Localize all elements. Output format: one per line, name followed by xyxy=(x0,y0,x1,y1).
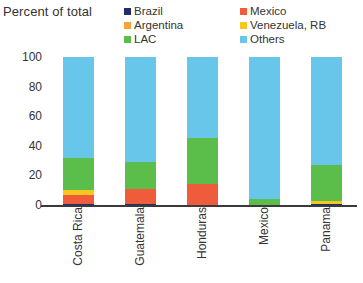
x-axis-label-panama: Panama xyxy=(311,207,342,283)
y-axis-tick-100: 100 xyxy=(22,51,42,63)
legend-item-brazil[interactable]: Brazil xyxy=(124,4,240,18)
legend-label-brazil: Brazil xyxy=(134,5,163,17)
plot-area: 100806040200 xyxy=(47,57,357,205)
bar-segment-others xyxy=(125,57,156,162)
bar-segment-lac xyxy=(187,138,218,184)
bar-segment-lac xyxy=(63,158,94,191)
bar-segment-mexico xyxy=(125,189,156,204)
legend-label-argentina: Argentina xyxy=(134,19,183,31)
legend-swatch-others xyxy=(240,36,247,43)
x-axis-label-mexico: Mexico xyxy=(249,207,280,283)
legend-label-others: Others xyxy=(250,33,285,45)
x-axis-label-text: Guatemala xyxy=(134,207,146,266)
y-axis-tick-60: 60 xyxy=(29,110,42,122)
x-axis-label-text: Costa Rica xyxy=(72,207,84,266)
legend-column-right: MexicoVenezuela, RBOthers xyxy=(240,4,356,46)
bar-segment-lac xyxy=(125,162,156,189)
bar-segment-others xyxy=(249,57,280,199)
legend-swatch-brazil xyxy=(124,8,131,15)
bar-segment-mexico xyxy=(63,195,94,204)
x-axis-label-text: Honduras xyxy=(196,207,208,259)
legend-item-argentina[interactable]: Argentina xyxy=(124,18,240,32)
legend-label-mexico: Mexico xyxy=(250,5,286,17)
bar-segment-others xyxy=(187,57,218,138)
bars-container xyxy=(47,57,357,205)
bar-mexico[interactable] xyxy=(249,57,280,205)
bar-segment-mexico xyxy=(187,184,218,205)
chart-legend: BrazilArgentinaLAC MexicoVenezuela, RBOt… xyxy=(124,4,363,46)
x-axis-label-honduras: Honduras xyxy=(187,207,218,283)
stacked-bar-chart: Percent of total BrazilArgentinaLAC Mexi… xyxy=(0,0,363,283)
legend-item-venezuela[interactable]: Venezuela, RB xyxy=(240,18,356,32)
x-axis-label-guatemala: Guatemala xyxy=(125,207,156,283)
bar-segment-others xyxy=(63,57,94,158)
bar-honduras[interactable] xyxy=(187,57,218,205)
legend-swatch-mexico xyxy=(240,8,247,15)
y-axis-tick-20: 20 xyxy=(29,169,42,181)
y-axis-title: Percent of total xyxy=(3,4,92,19)
legend-item-mexico[interactable]: Mexico xyxy=(240,4,356,18)
legend-item-others[interactable]: Others xyxy=(240,32,356,46)
bar-guatemala[interactable] xyxy=(125,57,156,205)
legend-swatch-argentina xyxy=(124,22,131,29)
y-axis-tick-80: 80 xyxy=(29,81,42,93)
bar-segment-lac xyxy=(311,165,342,201)
legend-swatch-venezuela xyxy=(240,22,247,29)
x-axis-label-text: Mexico xyxy=(258,207,270,245)
x-axis-label-costa-rica: Costa Rica xyxy=(63,207,94,283)
legend-swatch-lac xyxy=(124,36,131,43)
legend-label-lac: LAC xyxy=(134,33,156,45)
legend-item-lac[interactable]: LAC xyxy=(124,32,240,46)
bar-panama[interactable] xyxy=(311,57,342,205)
bar-segment-others xyxy=(311,57,342,165)
y-axis-tick-40: 40 xyxy=(29,140,42,152)
x-axis-label-text: Panama xyxy=(320,207,332,252)
x-axis-labels: Costa RicaGuatemalaHondurasMexicoPanama xyxy=(47,207,357,283)
legend-label-venezuela: Venezuela, RB xyxy=(250,19,326,31)
bar-costa-rica[interactable] xyxy=(63,57,94,205)
legend-column-left: BrazilArgentinaLAC xyxy=(124,4,240,46)
